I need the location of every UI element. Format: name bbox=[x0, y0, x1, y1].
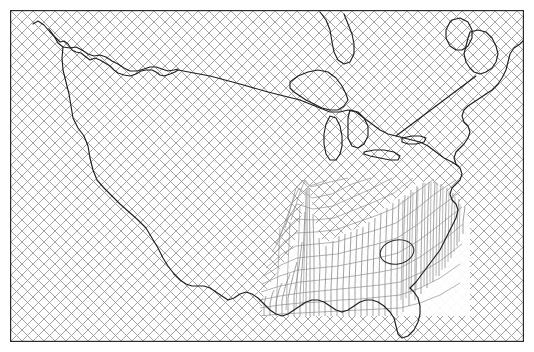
mesh-layer bbox=[10, 10, 524, 342]
figure-container bbox=[0, 0, 534, 352]
map-surface-plot bbox=[0, 0, 534, 352]
